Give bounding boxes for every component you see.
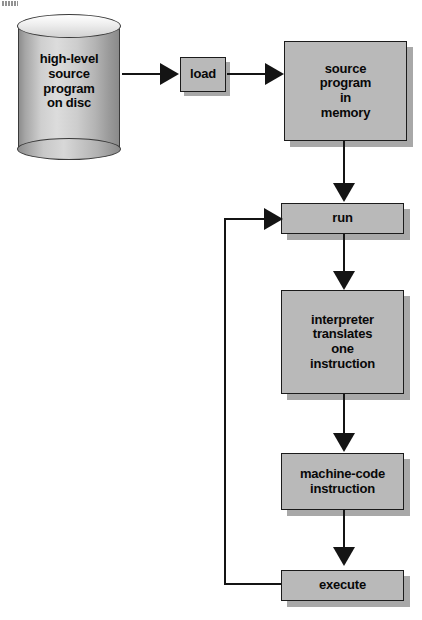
machine-code-line-2: instruction (282, 482, 403, 497)
edge-run-to-interpreter-line (343, 234, 345, 274)
interpreter-line-2: translates (282, 327, 403, 342)
machine-code-line-1: machine-code (282, 467, 403, 482)
edge-machine-code-to-execute-arrowhead (333, 547, 355, 566)
node-interpreter-translates[interactable]: interpreter translates one instruction (281, 290, 404, 394)
edge-interpreter-to-machine-code-line (343, 394, 345, 435)
node-source-program-in-memory[interactable]: source program in memory (284, 41, 407, 141)
run-line-1: run (282, 211, 403, 226)
edge-disc-to-load-arrowhead (160, 63, 179, 85)
edge-memory-to-run-arrowhead (333, 183, 355, 202)
execute-line-1: execute (282, 578, 403, 593)
edge-load-to-memory-line (227, 73, 269, 75)
interpreter-line-4: instruction (282, 357, 403, 372)
edge-run-to-interpreter-arrowhead (333, 271, 355, 290)
cylinder-bottom-ellipse (17, 138, 121, 160)
node-run[interactable]: run (281, 203, 404, 234)
scan-artifact (2, 1, 18, 6)
interpreter-line-3: one (282, 342, 403, 357)
node-disc[interactable]: high-level source program on disc (18, 14, 120, 160)
node-execute[interactable]: execute (281, 570, 404, 601)
source-memory-line-4: memory (285, 106, 406, 121)
disc-line-1: high-level (18, 52, 120, 67)
edge-memory-to-run-line (343, 141, 345, 186)
source-memory-line-1: source (285, 62, 406, 77)
source-memory-line-2: program (285, 76, 406, 91)
disc-line-2: source (18, 67, 120, 82)
edge-loop-bottom-segment (224, 583, 284, 585)
node-machine-code-instruction[interactable]: machine-code instruction (281, 453, 404, 510)
disc-line-4: on disc (18, 96, 120, 111)
disc-line-3: program (18, 82, 120, 97)
node-disc-label: high-level source program on disc (18, 52, 120, 111)
edge-loop-top-segment (224, 218, 268, 220)
load-line-1: load (181, 67, 225, 82)
edge-disc-to-load-line (122, 73, 164, 75)
cylinder-top-ellipse (17, 14, 121, 38)
edge-interpreter-to-machine-code-arrowhead (333, 433, 355, 452)
edge-load-to-memory-arrowhead (265, 63, 284, 85)
flowchart-canvas: high-level source program on disc load s… (0, 0, 422, 620)
source-memory-line-3: in (285, 91, 406, 106)
edge-machine-code-to-execute-line (343, 510, 345, 550)
interpreter-line-1: interpreter (282, 313, 403, 328)
edge-loop-arrowhead (264, 208, 283, 230)
node-load[interactable]: load (180, 57, 226, 92)
edge-loop-vertical-segment (224, 218, 226, 585)
